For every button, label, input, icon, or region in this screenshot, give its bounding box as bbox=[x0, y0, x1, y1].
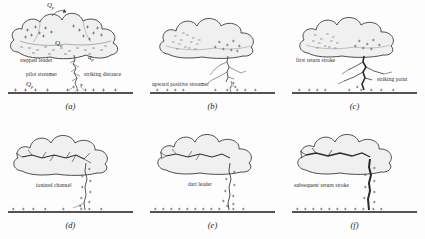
label-dart-leader: dart leader bbox=[188, 181, 212, 187]
panel-e: dart leader (e) bbox=[142, 119, 283, 238]
label-striking-point: striking point bbox=[377, 76, 407, 82]
label-subsequent-return-stroke: subsequent return stroke bbox=[294, 182, 349, 188]
stepped-leader-channel-a bbox=[70, 55, 80, 88]
charge-label-qp-small: qp bbox=[88, 53, 94, 62]
label-pilot-streamer: pilot streamer bbox=[26, 71, 57, 77]
label-ionized-channel: ionized channel bbox=[36, 182, 71, 188]
label-first-return-stroke: first return stroke bbox=[296, 57, 335, 63]
panel-c: first return stroke striking point (c) bbox=[284, 0, 425, 119]
panel-f: subsequent return stroke (f) bbox=[284, 119, 425, 238]
first-return-stroke-channel-c bbox=[362, 56, 366, 90]
ground-charges-d bbox=[12, 208, 103, 211]
panel-caption-e: (e) bbox=[142, 220, 283, 230]
ground-charges-c bbox=[298, 86, 395, 92]
lower-streamer-d bbox=[73, 203, 84, 208]
panel-caption-f: (f) bbox=[284, 220, 425, 230]
lightning-formation-figure: Qp Qn Qp qp stepped leader pilot streame… bbox=[0, 0, 425, 239]
panel-caption-b: (b) bbox=[142, 101, 283, 111]
panel-d: ionized channel (d) bbox=[0, 119, 141, 238]
label-striking-distance: striking distance bbox=[84, 71, 121, 77]
charge-label-qp-ground: Qp bbox=[26, 80, 33, 89]
label-stepped-leader: stepped leader bbox=[20, 57, 52, 63]
charge-label-qn-cloud: Qn bbox=[55, 39, 62, 48]
charge-label-qp-top: Qp bbox=[47, 1, 54, 10]
panel-caption-d: (d) bbox=[0, 220, 141, 230]
cloud-shape-b bbox=[160, 18, 254, 58]
label-upward-positive-streamer: upward positive streamer bbox=[152, 81, 209, 87]
cloud-shape-c bbox=[300, 17, 394, 57]
panel-caption-a: (a) bbox=[0, 101, 141, 111]
stepped-leader-channel-b bbox=[208, 56, 246, 83]
panel-b: upward positive streamer (b) bbox=[142, 0, 283, 119]
panel-caption-c: (c) bbox=[284, 101, 425, 111]
ground-charges-e bbox=[154, 205, 245, 211]
panel-a: Qp Qn Qp qp stepped leader pilot streame… bbox=[0, 0, 141, 119]
